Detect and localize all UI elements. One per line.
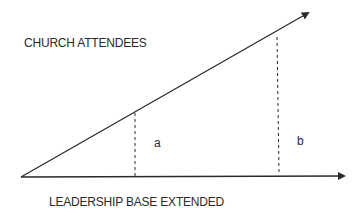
- y-axis-label: CHURCH ATTENDEES: [24, 36, 147, 50]
- x-axis-label: LEADERSHIP BASE EXTENDED: [49, 195, 224, 209]
- diagram-canvas: [0, 0, 362, 216]
- segment-label-a: a: [154, 136, 161, 150]
- x-axis-arrow: [21, 176, 344, 177]
- segment-label-b: b: [297, 134, 304, 148]
- dashed-line-b: [277, 37, 279, 173]
